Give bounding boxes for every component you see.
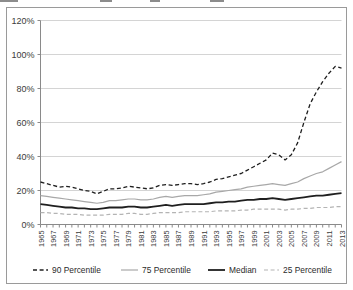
y-axis-label-40: 40% [16, 152, 34, 162]
x-axis-label-1979: 1979 [124, 231, 133, 247]
legend-label-25-percentile: 25 Percentile [283, 265, 332, 275]
y-axis-label-60: 60% [16, 118, 34, 128]
legend-label-median: Median [229, 265, 257, 275]
x-axis-label-2001: 2001 [262, 231, 271, 247]
legend-label-75-percentile: 75 Percentile [142, 265, 191, 275]
x-axis-label-1995: 1995 [225, 231, 234, 247]
x-axis-label-1985: 1985 [162, 231, 171, 247]
x-axis-label-2003: 2003 [275, 231, 284, 247]
x-axis-label-1999: 1999 [250, 231, 259, 247]
x-axis-label-1997: 1997 [237, 231, 246, 247]
x-axis-label-1983: 1983 [149, 231, 158, 247]
series-line-75-percentile [41, 162, 342, 204]
x-axis-label-2011: 2011 [325, 231, 334, 247]
gridlines-group [41, 21, 342, 191]
line-chart-plot: 0%20%40%60%80%100%120% 19651967196919711… [0, 0, 353, 290]
x-axis-label-2013: 2013 [338, 231, 347, 247]
x-axis-label-2009: 2009 [312, 231, 321, 247]
chart-figure: 0%20%40%60%80%100%120% 19651967196919711… [0, 0, 353, 290]
y-axis-label-20: 20% [16, 186, 34, 196]
x-axis-label-1981: 1981 [137, 231, 146, 247]
x-axis-label-1971: 1971 [74, 231, 83, 247]
y-axis-label-120: 120% [11, 16, 34, 26]
y-axis-label-100: 100% [11, 50, 34, 60]
x-axis-label-1977: 1977 [112, 231, 121, 247]
x-axis-label-1991: 1991 [200, 231, 209, 247]
y-axis-label-80: 80% [16, 84, 34, 94]
y-axis-label-0: 0% [21, 220, 34, 230]
x-axis-label-1965: 1965 [37, 231, 46, 247]
chart-legend: 90 Percentile75 PercentileMedian25 Perce… [33, 265, 332, 275]
x-axis-label-1989: 1989 [187, 231, 196, 247]
x-axis-label-1969: 1969 [62, 231, 71, 247]
x-axis-label-1993: 1993 [212, 231, 221, 247]
x-axis-label-2005: 2005 [287, 231, 296, 247]
x-axis-label-1975: 1975 [99, 231, 108, 247]
x-axis-label-1973: 1973 [87, 231, 96, 247]
y-axis-labels-group: 0%20%40%60%80%100%120% [11, 16, 34, 230]
legend-label-90-percentile: 90 Percentile [52, 265, 101, 275]
x-axis-label-1967: 1967 [49, 231, 58, 247]
x-axis-labels-group: 1965196719691971197319751977197919811983… [37, 231, 347, 247]
series-line-90-percentile [41, 66, 342, 193]
x-axis-label-1987: 1987 [174, 231, 183, 247]
x-axis-label-2007: 2007 [300, 231, 309, 247]
